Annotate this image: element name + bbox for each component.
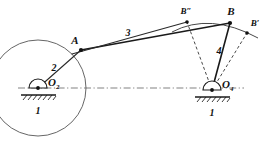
label-point-a: A bbox=[70, 34, 78, 46]
joint-dot-b bbox=[228, 21, 232, 25]
label-pivot-o4-subscript: 4 bbox=[229, 85, 234, 93]
ground-hatching-o2 bbox=[23, 95, 56, 100]
joint-dot-a bbox=[79, 48, 83, 52]
joint-dot-b-prime bbox=[245, 31, 249, 35]
label-link-2: 2 bbox=[51, 62, 57, 73]
joint-dot-b-double-prime bbox=[185, 20, 189, 24]
link-3-coupler bbox=[81, 23, 230, 50]
label-pivot-o4-letter: O bbox=[222, 78, 230, 90]
label-pivot-o4: O4 bbox=[222, 78, 234, 93]
label-link-3: 3 bbox=[125, 27, 131, 38]
label-pivot-o2-subscript: 2 bbox=[55, 83, 60, 91]
label-link-4: 4 bbox=[216, 45, 222, 56]
link4-dashed-position-b-double-prime bbox=[187, 22, 212, 90]
joint-dot-o2 bbox=[36, 86, 40, 90]
joint-dot-o4 bbox=[210, 88, 214, 92]
label-point-b-double-prime: B″ bbox=[180, 6, 192, 16]
linkage-diagram-canvas: A B B′ B″ 2 3 4 O2 O4 1 1 bbox=[0, 0, 269, 150]
label-ground-left: 1 bbox=[36, 105, 41, 116]
label-ground-right: 1 bbox=[210, 107, 215, 118]
label-point-b-prime: B′ bbox=[250, 18, 260, 28]
linkage-figure: A B B′ B″ 2 3 4 O2 O4 1 1 bbox=[0, 0, 269, 150]
label-point-b: B bbox=[226, 5, 234, 17]
label-pivot-o2-letter: O bbox=[48, 76, 56, 88]
ground-hatching-o4 bbox=[197, 97, 230, 102]
